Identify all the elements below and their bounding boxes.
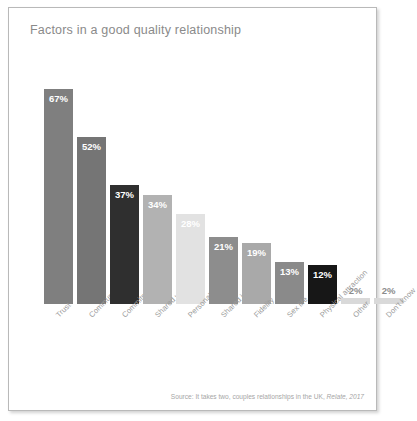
- source-citation: Relate, 2017: [327, 393, 364, 400]
- bar-group[interactable]: 28%: [176, 214, 205, 304]
- bar-value-label: 52%: [77, 141, 106, 152]
- chart-card: Factors in a good quality relationship 6…: [8, 7, 377, 411]
- bar-group[interactable]: 52%: [77, 137, 106, 304]
- bar-value-label: 12%: [308, 269, 337, 280]
- bar-value-label: 2%: [341, 285, 370, 296]
- bar[interactable]: [44, 89, 73, 304]
- bar-group[interactable]: 19%: [242, 243, 271, 304]
- bar-group[interactable]: 34%: [143, 195, 172, 304]
- source-prefix: Source: It takes two, couples relationsh…: [171, 393, 327, 400]
- bar[interactable]: [110, 185, 139, 304]
- bar-value-label: 2%: [374, 285, 403, 296]
- bar-group[interactable]: 21%: [209, 237, 238, 304]
- bar-value-label: 67%: [44, 93, 73, 104]
- bar-value-label: 21%: [209, 241, 238, 252]
- bar-group[interactable]: 67%: [44, 89, 73, 304]
- bar-group[interactable]: 37%: [110, 185, 139, 304]
- bar-value-label: 28%: [176, 218, 205, 229]
- bar-value-label: 34%: [143, 199, 172, 210]
- bar-value-label: 37%: [110, 189, 139, 200]
- bar-value-label: 19%: [242, 247, 271, 258]
- bar[interactable]: [77, 137, 106, 304]
- bar[interactable]: [143, 195, 172, 304]
- bar-value-label: 13%: [275, 266, 304, 277]
- bar-chart-plot-area: 67%Trust52%Communication37%Commitment34%…: [9, 8, 378, 412]
- source-note: Source: It takes two, couples relationsh…: [171, 393, 364, 400]
